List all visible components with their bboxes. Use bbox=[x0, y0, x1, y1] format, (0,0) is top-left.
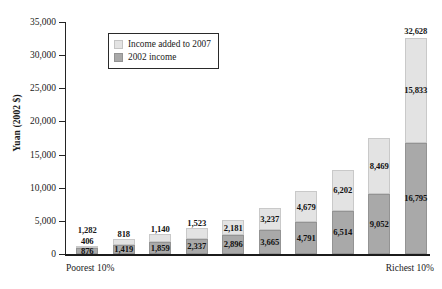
bar-segment-label-2002-income: 1,859 bbox=[151, 243, 170, 253]
bar-segment-label-income-added: 1,523 bbox=[187, 218, 206, 228]
bar-segment-income-added: 2,181 bbox=[222, 220, 244, 234]
bar-segment-label-income-added: 2,181 bbox=[224, 223, 243, 233]
bar-segment-label-2002-income: 876 bbox=[81, 246, 94, 256]
legend-label-2002-income: 2002 income bbox=[128, 51, 176, 64]
bar-segment-label-income-added: 1,140 bbox=[151, 224, 170, 234]
bar-segment-income-added: 1,140 bbox=[149, 234, 171, 242]
bar-segment-label-income-added: 6,202 bbox=[333, 185, 352, 195]
chart-legend: Income added to 2007 2002 income bbox=[108, 33, 219, 69]
bar-segment-2002-income: 2,896 bbox=[222, 235, 244, 254]
y-axis-tick-label: 30,000 bbox=[30, 50, 56, 60]
bar-segment-label-2002-income: 2,896 bbox=[224, 239, 243, 249]
bar-segment-label-income-added: 406 bbox=[81, 236, 94, 246]
y-axis-title: Yuan (2002 $) bbox=[12, 68, 22, 178]
bar-segment-label-2002-income: 3,665 bbox=[260, 237, 279, 247]
bar-segment-2002-income: 2,337 bbox=[186, 239, 208, 254]
y-axis-tick-label: 35,000 bbox=[30, 17, 56, 27]
bar-group: 4,6794,791 bbox=[295, 191, 317, 254]
x-axis-right-label: Richest 10% bbox=[386, 263, 434, 273]
y-axis-tick-label: 15,000 bbox=[30, 150, 56, 160]
y-axis-tick-label: 0 bbox=[51, 249, 56, 259]
bar-segment-2002-income: 6,514 bbox=[332, 211, 354, 254]
legend-swatch-icon-2002-income bbox=[114, 53, 123, 62]
bar-segment-label-income-added: 15,833 bbox=[404, 85, 427, 95]
bar-group: 4068761,282 bbox=[76, 246, 98, 254]
bar-segment-income-added: 8,469 bbox=[368, 138, 390, 194]
bar-segment-label-2002-income: 16,795 bbox=[404, 193, 427, 203]
legend-item-2002-income: 2002 income bbox=[114, 51, 213, 64]
bar-segment-label-income-added: 4,679 bbox=[297, 202, 316, 212]
legend-label-income-added: Income added to 2007 bbox=[128, 38, 211, 51]
bar-segment-2002-income: 16,795 bbox=[405, 143, 427, 254]
bar-group: 1,1401,859 bbox=[149, 234, 171, 254]
bar-segment-income-added: 4,679 bbox=[295, 191, 317, 222]
legend-item-income-added: Income added to 2007 bbox=[114, 38, 213, 51]
bar-group: 8181,419 bbox=[113, 239, 135, 254]
y-axis-tick-label: 25,000 bbox=[30, 83, 56, 93]
bar-segment-income-added: 1,523 bbox=[186, 228, 208, 238]
bar-segment-2002-income: 1,419 bbox=[113, 245, 135, 254]
legend-swatch-icon-income-added bbox=[114, 40, 123, 49]
bar-group: 8,4699,052 bbox=[368, 138, 390, 254]
bar-group: 2,1812,896 bbox=[222, 220, 244, 254]
bar-segment-label-2002-income: 4,791 bbox=[297, 233, 316, 243]
bar-segment-2002-income: 876 bbox=[76, 248, 98, 254]
bar-group: 3,2373,665 bbox=[259, 208, 281, 254]
bar-segment-label-income-added: 3,237 bbox=[260, 214, 279, 224]
bar-group: 6,2026,514 bbox=[332, 170, 354, 254]
y-axis-tick-label: 20,000 bbox=[30, 116, 56, 126]
bar-segment-income-added: 3,237 bbox=[259, 208, 281, 229]
bar-segment-2002-income: 9,052 bbox=[368, 194, 390, 254]
bar-segment-2002-income: 4,791 bbox=[295, 222, 317, 254]
bar-segment-label-2002-income: 2,337 bbox=[187, 241, 206, 251]
bar-segment-label-income-added: 8,469 bbox=[370, 161, 389, 171]
bar-segment-label-2002-income: 6,514 bbox=[333, 227, 352, 237]
bar-segment-label-income-added: 818 bbox=[117, 229, 130, 239]
bar-segment-label-2002-income: 9,052 bbox=[370, 219, 389, 229]
bar-segment-2002-income: 1,859 bbox=[149, 242, 171, 254]
y-axis-tick-label: 5,000 bbox=[35, 216, 56, 226]
bar-segment-label-2002-income: 1,419 bbox=[114, 244, 133, 254]
y-axis-tick-label: 10,000 bbox=[30, 183, 56, 193]
bar-group: 15,83316,79532,628 bbox=[405, 38, 427, 254]
bar-total-label: 32,628 bbox=[404, 26, 427, 36]
bar-segment-2002-income: 3,665 bbox=[259, 230, 281, 254]
income-decile-stacked-bar-chart: Yuan (2002 $) 05,00010,00015,00020,00025… bbox=[0, 0, 442, 289]
bar-total-label: 1,282 bbox=[78, 225, 97, 235]
bar-segment-income-added: 15,833 bbox=[405, 38, 427, 143]
bar-segment-income-added: 6,202 bbox=[332, 170, 354, 211]
x-axis-left-label: Poorest 10% bbox=[66, 263, 114, 273]
bar-group: 1,5232,337 bbox=[186, 228, 208, 254]
